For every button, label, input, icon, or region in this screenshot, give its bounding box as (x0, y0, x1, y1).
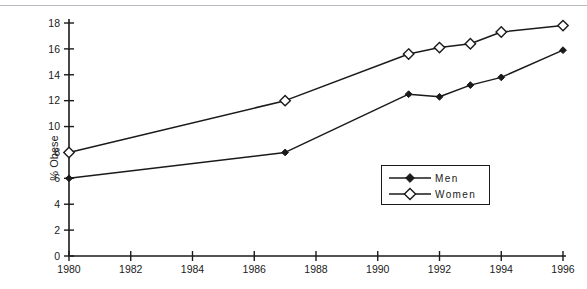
chart-plot-area: 0246810121416181980198219841986198819901… (0, 0, 587, 289)
y-tick-label: 2 (54, 224, 60, 236)
data-point-men-1993 (467, 82, 474, 89)
open-diamond-icon (388, 187, 432, 201)
data-point-women-1994 (496, 27, 506, 37)
filled-diamond-icon (388, 171, 432, 185)
data-point-women-1991 (403, 49, 413, 59)
x-tick-label: 1980 (57, 263, 81, 275)
y-axis-label: % Obese (48, 98, 60, 218)
data-point-women-1980 (64, 147, 74, 157)
x-tick-label: 1990 (366, 263, 390, 275)
x-tick-label: 1988 (304, 263, 328, 275)
data-point-women-1992 (434, 42, 444, 52)
legend-item-men: Men (388, 170, 459, 186)
data-point-men-1996 (560, 47, 567, 54)
chart-legend: Men Women (381, 165, 490, 205)
x-tick-label: 1982 (119, 263, 143, 275)
data-point-men-1992 (436, 93, 443, 100)
data-point-women-1987 (280, 95, 290, 105)
data-point-men-1991 (405, 91, 412, 98)
y-tick-label: 18 (48, 17, 60, 29)
data-point-women-1993 (465, 39, 475, 49)
x-tick-label: 1984 (181, 263, 205, 275)
legend-item-women: Women (388, 186, 476, 202)
data-point-men-1980 (66, 175, 73, 182)
y-tick-label: 0 (54, 250, 60, 262)
obesity-trend-line-chart: 0246810121416181980198219841986198819901… (0, 0, 587, 289)
x-tick-label: 1986 (243, 263, 267, 275)
series-line-women (69, 26, 563, 153)
legend-label-men: Men (435, 173, 459, 184)
x-tick-label: 1994 (490, 263, 514, 275)
y-tick-label: 14 (48, 69, 60, 81)
y-tick-label: 16 (48, 43, 60, 55)
x-tick-label: 1996 (551, 263, 575, 275)
x-tick-label: 1992 (428, 263, 452, 275)
data-point-men-1994 (498, 74, 505, 81)
figure-container: 0246810121416181980198219841986198819901… (0, 0, 587, 289)
data-point-women-1996 (558, 20, 568, 30)
data-point-men-1987 (282, 149, 289, 156)
legend-label-women: Women (435, 189, 476, 200)
series-line-men (69, 50, 563, 178)
